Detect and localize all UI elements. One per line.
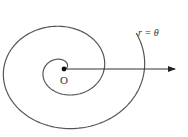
curve-equation-label: r = θ bbox=[138, 27, 159, 38]
origin-point bbox=[62, 67, 67, 72]
spiral-curve bbox=[3, 26, 144, 128]
spiral-diagram bbox=[0, 0, 188, 137]
origin-label: O bbox=[60, 74, 68, 86]
